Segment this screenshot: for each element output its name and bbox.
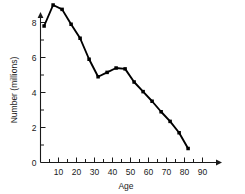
x-tick-label: 40 bbox=[108, 167, 118, 177]
data-point-marker bbox=[132, 80, 136, 84]
y-tick-label: 4 bbox=[32, 88, 37, 98]
data-point-marker bbox=[69, 23, 73, 27]
data-point-marker bbox=[42, 24, 46, 28]
axes bbox=[38, 12, 222, 165]
tick-marks bbox=[41, 23, 203, 163]
y-axis-arrowhead bbox=[38, 12, 44, 18]
y-tick-label: 0 bbox=[32, 158, 37, 168]
x-tick-label: 20 bbox=[72, 167, 82, 177]
x-tick-label: 60 bbox=[144, 167, 154, 177]
data-point-marker bbox=[60, 8, 64, 12]
data-point-marker bbox=[51, 3, 55, 7]
y-tick-label: 8 bbox=[32, 18, 37, 28]
x-axis-arrowhead bbox=[216, 160, 222, 166]
x-tick-label: 70 bbox=[162, 167, 172, 177]
data-point-marker bbox=[123, 67, 127, 71]
tick-labels: 10203040506070809002468 bbox=[32, 18, 208, 177]
data-point-marker bbox=[114, 66, 118, 70]
data-point-marker bbox=[78, 37, 82, 41]
data-point-marker bbox=[141, 90, 145, 94]
x-tick-label: 50 bbox=[126, 167, 136, 177]
data-point-marker bbox=[105, 71, 109, 75]
x-tick-label: 80 bbox=[180, 167, 190, 177]
x-tick-label: 30 bbox=[90, 167, 100, 177]
data-point-marker bbox=[168, 120, 172, 124]
data-point-marker bbox=[177, 131, 181, 135]
x-axis-title: Age bbox=[118, 181, 133, 191]
data-series bbox=[42, 3, 190, 150]
chart-plot-area: 10203040506070809002468 Age Number (mill… bbox=[0, 0, 245, 194]
x-tick-label: 10 bbox=[54, 167, 64, 177]
y-tick-label: 2 bbox=[32, 123, 37, 133]
age-distribution-chart: 10203040506070809002468 Age Number (mill… bbox=[0, 0, 245, 194]
y-tick-label: 6 bbox=[32, 53, 37, 63]
data-point-marker bbox=[87, 58, 91, 62]
data-point-marker bbox=[159, 110, 163, 114]
x-tick-label: 90 bbox=[198, 167, 208, 177]
data-line bbox=[44, 5, 188, 149]
data-point-marker bbox=[96, 75, 100, 79]
y-axis-title: Number (millions) bbox=[9, 57, 19, 124]
data-point-marker bbox=[150, 100, 154, 104]
data-point-marker bbox=[186, 147, 190, 151]
